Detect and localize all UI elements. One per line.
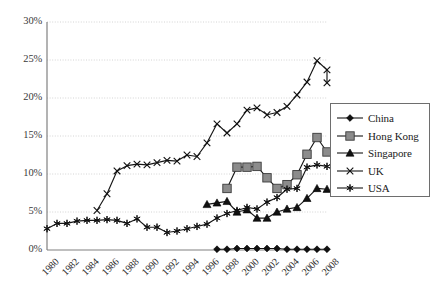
legend-label: Hong Kong (365, 130, 419, 142)
marker-diamond (304, 246, 311, 253)
series-line (47, 165, 327, 233)
marker-cross (234, 121, 241, 128)
marker-diamond (324, 246, 331, 253)
marker-diamond (234, 245, 241, 252)
marker-cross (314, 57, 321, 64)
marker-star (264, 199, 270, 206)
marker-star (44, 225, 50, 232)
series-usa (44, 161, 330, 236)
legend-key-star-icon (335, 180, 365, 196)
marker-diamond (347, 115, 354, 122)
marker-cross (224, 130, 231, 137)
marker-cross (114, 168, 121, 175)
legend-label: China (365, 112, 394, 124)
legend-item-china[interactable]: China (335, 109, 394, 127)
legend-item-hong-kong[interactable]: Hong Kong (335, 127, 419, 145)
legend-label: USA (365, 182, 390, 194)
legend-label: UK (365, 165, 384, 177)
marker-cross (304, 79, 311, 86)
marker-diamond (264, 245, 271, 252)
legend-key-square-icon (335, 128, 365, 144)
marker-square (233, 163, 241, 171)
marker-diamond (254, 245, 261, 252)
y-axis-tick-label: 5% (2, 205, 42, 216)
marker-diamond (214, 246, 221, 253)
marker-cross (94, 207, 101, 214)
y-axis-tick-label: 30% (2, 15, 42, 26)
marker-star (124, 220, 130, 227)
marker-star (214, 214, 220, 221)
y-axis-tick-label: 10% (2, 167, 42, 178)
series-hong-kong (223, 133, 331, 192)
legend-key-cross-icon (335, 163, 365, 179)
marker-square (313, 133, 321, 141)
marker-square (346, 131, 354, 139)
y-axis-tick-label: 25% (2, 53, 42, 64)
legend-key-triangle-icon (335, 145, 365, 161)
marker-cross (284, 103, 291, 110)
marker-cross (104, 190, 111, 197)
marker-diamond (244, 245, 251, 252)
marker-square (263, 174, 271, 182)
marker-square (303, 150, 311, 158)
marker-diamond (224, 246, 231, 253)
marker-square (253, 162, 261, 170)
series-china (214, 245, 331, 253)
chart-legend: ChinaHong KongSingaporeUKUSA (330, 103, 430, 197)
legend-item-uk[interactable]: UK (335, 162, 384, 180)
series-line (97, 61, 327, 211)
legend-item-usa[interactable]: USA (335, 179, 390, 197)
legend-label: Singapore (365, 147, 412, 159)
marker-cross (214, 121, 221, 128)
marker-square (273, 184, 281, 192)
marker-diamond (284, 246, 291, 253)
marker-triangle (223, 197, 231, 204)
y-axis-tick-label: 20% (2, 91, 42, 102)
marker-cross (294, 92, 301, 99)
marker-star (224, 210, 230, 217)
series-line (227, 138, 327, 189)
marker-triangle (313, 184, 321, 191)
chart-container: 0%5%10%15%20%25%30% 19801982198419861988… (0, 0, 435, 297)
legend-item-singapore[interactable]: Singapore (335, 144, 412, 162)
marker-square (293, 171, 301, 179)
marker-diamond (274, 245, 281, 252)
marker-diamond (294, 246, 301, 253)
marker-cross (204, 140, 211, 147)
y-axis-tick-label: 0% (2, 243, 42, 254)
marker-square (243, 163, 251, 171)
legend-key-diamond-icon (335, 110, 365, 126)
marker-square (223, 184, 231, 192)
y-axis-tick-label: 15% (2, 129, 42, 140)
marker-diamond (314, 246, 321, 253)
